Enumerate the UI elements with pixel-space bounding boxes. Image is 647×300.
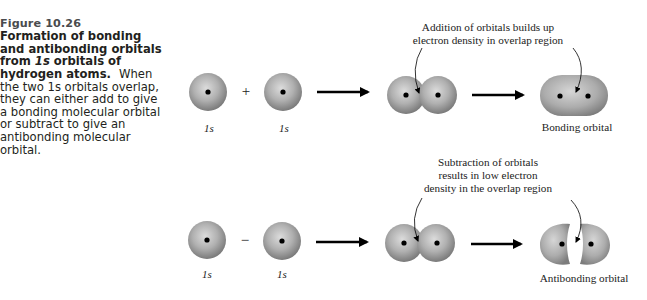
- overlapping-orbitals: [385, 224, 455, 262]
- antibonding-orbital-label: Antibonding orbital: [540, 272, 629, 284]
- plus-operator: +: [242, 83, 250, 99]
- nucleus-icon: [403, 92, 408, 97]
- antibonding-annotation-line1: Subtraction of orbitals: [438, 156, 538, 168]
- orbital-diagram: 1s + 1s Addition of orbitals builds up e…: [0, 0, 647, 300]
- nucleus-icon: [588, 241, 593, 246]
- nucleus-icon: [557, 93, 562, 98]
- bonding-row: 1s + 1s Addition of orbitals builds up e…: [189, 21, 612, 134]
- nucleus-icon: [401, 240, 406, 245]
- antibonding-orbital: [540, 224, 610, 265]
- nucleus-icon: [435, 92, 440, 97]
- orbital-1s-right: [263, 222, 301, 260]
- orbital-left-label: 1s: [204, 122, 214, 134]
- bonding-annotation-line1: Addition of orbitals builds up: [422, 21, 555, 33]
- nucleus-icon: [279, 238, 284, 243]
- bonding-orbital-label: Bonding orbital: [542, 121, 613, 133]
- orbital-1s-right: [264, 73, 302, 111]
- bonding-orbital: [540, 75, 608, 116]
- orbital-right-label: 1s: [279, 122, 289, 134]
- nucleus-icon: [205, 89, 210, 94]
- orbital-1s-left: [188, 221, 226, 259]
- orbital-left-label: 1s: [202, 268, 212, 280]
- overlapping-orbitals: [387, 76, 457, 114]
- minus-operator: −: [241, 232, 249, 248]
- bonding-annotation-line2: electron density in overlap region: [413, 34, 564, 46]
- nucleus-icon: [204, 237, 209, 242]
- antibonding-row: 1s − 1s Subtraction of orbitals results …: [188, 156, 628, 284]
- orbital-1s-left: [189, 73, 227, 111]
- nucleus-icon: [585, 93, 590, 98]
- nucleus-icon: [559, 241, 564, 246]
- pointer-arrow-icon: [571, 200, 581, 242]
- antibonding-annotation-line3: density in the overlap region: [424, 182, 552, 194]
- orbital-right-label: 1s: [277, 268, 287, 280]
- nucleus-icon: [434, 240, 439, 245]
- antibonding-annotation-line2: results in low electron: [438, 169, 538, 181]
- nucleus-icon: [280, 89, 285, 94]
